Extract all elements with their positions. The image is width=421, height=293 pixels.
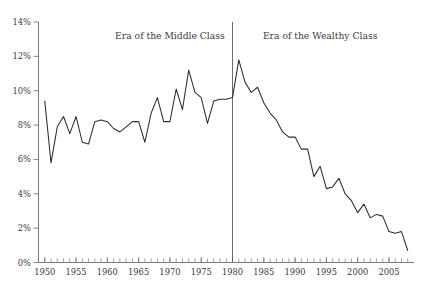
x-tick-label-1970: 1970 (159, 267, 180, 277)
x-tick-label-1985: 1985 (253, 267, 274, 277)
x-tick-label-1965: 1965 (128, 267, 149, 277)
y-tick-label-8%: 8% (18, 120, 31, 130)
y-tick-label-6%: 6% (18, 154, 31, 164)
y-tick-label-10%: 10% (13, 86, 32, 96)
x-tick-label-1980: 1980 (222, 267, 243, 277)
x-tick-label-1990: 1990 (285, 267, 306, 277)
y-axis-ticks (34, 22, 39, 263)
y-tick-label-0%: 0% (18, 258, 31, 268)
x-axis-tick-labels: 1950195519601965197019751980198519901995… (34, 267, 399, 277)
x-tick-label-1975: 1975 (191, 267, 212, 277)
x-tick-label-1995: 1995 (316, 267, 337, 277)
y-axis-tick-labels: 0%2%4%6%8%10%12%14% (13, 17, 32, 268)
x-tick-label-2000: 2000 (347, 267, 368, 277)
x-tick-label-2005: 2005 (378, 267, 399, 277)
y-tick-label-12%: 12% (13, 51, 32, 61)
x-tick-label-1960: 1960 (97, 267, 118, 277)
x-tick-label-1955: 1955 (65, 267, 86, 277)
y-tick-label-14%: 14% (13, 17, 32, 27)
x-tick-label-1950: 1950 (34, 267, 55, 277)
data-series-line (45, 60, 408, 251)
y-tick-label-4%: 4% (18, 189, 31, 199)
era-label-middle-class: Era of the Middle Class (115, 30, 225, 41)
era-label-wealthy-class: Era of the Wealthy Class (263, 30, 378, 41)
line-chart: 0%2%4%6%8%10%12%14% 19501955196019651970… (0, 0, 421, 293)
x-axis-major-ticks (45, 257, 389, 263)
y-tick-label-2%: 2% (18, 223, 31, 233)
x-axis-minor-ticks (45, 259, 408, 263)
chart-container: 0%2%4%6%8%10%12%14% 19501955196019651970… (0, 0, 421, 293)
